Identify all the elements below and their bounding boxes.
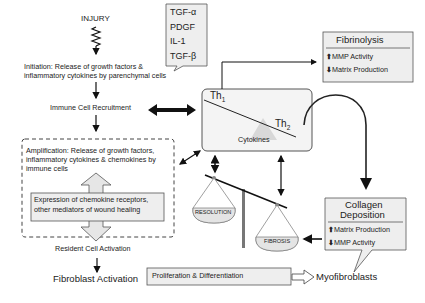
myofibroblasts-label: Myofibroblasts <box>316 272 377 283</box>
growth-factor-item: IL-1 <box>170 34 196 49</box>
proliferation-label: Proliferation & Differentiation <box>152 272 243 280</box>
fibrinolysis-title: Fibrinolysis <box>336 35 384 46</box>
collagen-item-1: ⬆Matrix Production <box>328 226 390 234</box>
cytokines-label: Cytokines <box>238 136 270 144</box>
growth-factor-item: TGF-β <box>170 49 196 64</box>
fibroblast-activation-label: Fibroblast Activation <box>53 274 138 285</box>
th2-main: Th <box>275 118 287 129</box>
curved-arrow-icon <box>304 95 366 178</box>
growth-factor-list: TGF-α PDGF IL-1 TGF-β <box>170 5 196 63</box>
fibrinolysis-item-2: ⬇Matrix Production <box>326 66 388 74</box>
bidirectional-thick-arrow-icon <box>148 104 196 116</box>
resolution-pan-label: RESOLUTION <box>195 209 231 215</box>
resident-activation-label: Resident Cell Activation <box>55 245 131 253</box>
collagen-item-2: ⬇MMP Activity <box>328 239 375 247</box>
th2-label: Th2 <box>275 118 290 131</box>
injury-label: INJURY <box>81 14 110 23</box>
immune-recruitment-label: Immune Cell Recruitment <box>50 104 131 112</box>
bidirectional-arrow-icon <box>180 151 200 164</box>
growth-factor-item: PDGF <box>170 20 196 35</box>
th1-label: Th1 <box>210 90 225 103</box>
injury-zigzag-icon <box>92 27 100 54</box>
collagen-title-2: Deposition <box>340 210 385 221</box>
expression-text-1: Expression of chemokine receptors, <box>34 196 148 204</box>
expression-text-2: other mediators of wound healing <box>34 206 140 214</box>
growth-factor-item: TGF-α <box>170 5 196 20</box>
hollow-right-arrow-icon <box>292 270 314 284</box>
arrow-to-fibrinolysis-icon <box>222 62 316 89</box>
th2-sub: 2 <box>287 124 291 131</box>
th1-main: Th <box>210 90 222 101</box>
th1-sub: 1 <box>222 96 226 103</box>
fibrosis-pan-label: FIBROSIS <box>264 238 290 244</box>
amplification-text-3: immune cells <box>26 165 68 173</box>
fibrinolysis-item-1: ⬆MMP Activity <box>326 53 373 61</box>
initiation-text-2: inflammatory cytokines by parenchymal ce… <box>24 72 166 80</box>
